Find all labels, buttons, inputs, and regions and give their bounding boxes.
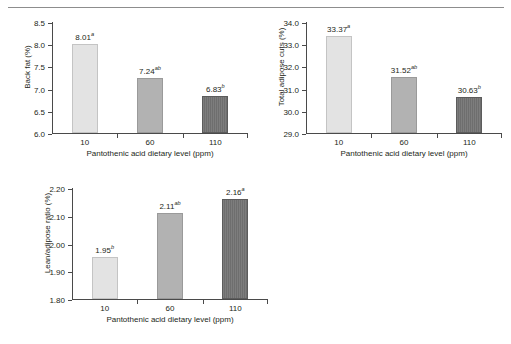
bar-value-label: 33.37a bbox=[327, 25, 350, 34]
y-axis-tick bbox=[68, 189, 72, 190]
x-axis-tick bbox=[183, 134, 184, 138]
bar-value-label: 31.52ab bbox=[391, 66, 417, 75]
y-axis-tick-label: 33.0 bbox=[283, 41, 299, 50]
x-axis-tick-label: 60 bbox=[146, 138, 155, 147]
y-axis-tick bbox=[48, 23, 52, 24]
x-axis-line bbox=[306, 133, 502, 134]
chart-back-fat: Back fat (%) 6.06.57.07.58.08.58.01a107.… bbox=[8, 16, 252, 168]
y-axis-tick-label: 34.0 bbox=[283, 19, 299, 28]
y-axis-tick-label: 1.90 bbox=[49, 268, 65, 277]
bar bbox=[92, 257, 118, 299]
x-axis-tick bbox=[203, 300, 204, 304]
x-axis-tick-label: 60 bbox=[400, 138, 409, 147]
x-axis-tick-label: 110 bbox=[463, 138, 476, 147]
bar bbox=[137, 78, 163, 133]
y-axis-line bbox=[306, 22, 307, 134]
y-axis-line bbox=[72, 188, 73, 300]
x-axis-tick bbox=[137, 300, 138, 304]
x-axis-tick-label: 10 bbox=[80, 138, 89, 147]
x-axis-tick bbox=[501, 134, 502, 138]
bar-value-label: 2.16a bbox=[226, 188, 245, 197]
y-axis-tick bbox=[302, 134, 306, 135]
y-axis-tick-label: 6.5 bbox=[34, 107, 45, 116]
x-axis-tick bbox=[371, 134, 372, 138]
x-axis-tick bbox=[267, 300, 268, 304]
bar bbox=[222, 199, 248, 299]
y-axis-tick-label: 31.0 bbox=[283, 85, 299, 94]
y-axis-tick bbox=[68, 272, 72, 273]
bar bbox=[157, 213, 183, 299]
x-axis-title: Pantothenic acid dietary level (ppm) bbox=[52, 149, 248, 158]
y-axis-tick-label: 1.80 bbox=[49, 296, 65, 305]
x-axis-tick bbox=[437, 134, 438, 138]
x-axis-line bbox=[72, 299, 268, 300]
y-axis-tick bbox=[48, 90, 52, 91]
y-axis-tick-label: 2.20 bbox=[49, 185, 65, 194]
y-axis-tick bbox=[68, 300, 72, 301]
bar bbox=[202, 96, 228, 133]
x-axis-title: Pantothenic acid dietary level (ppm) bbox=[72, 315, 268, 324]
chart-total-adipose-cuts: Total adipose cuts (%) 29.030.031.032.03… bbox=[262, 16, 506, 168]
y-axis-tick-label: 2.10 bbox=[49, 212, 65, 221]
x-axis-tick bbox=[247, 134, 248, 138]
y-axis-tick-label: 29.0 bbox=[283, 130, 299, 139]
x-axis-line bbox=[52, 133, 248, 134]
y-axis-tick bbox=[302, 45, 306, 46]
y-axis-tick bbox=[302, 67, 306, 68]
x-axis-tick-label: 60 bbox=[166, 304, 175, 313]
bar-value-label: 1.95b bbox=[95, 246, 114, 255]
y-axis-tick-label: 2.00 bbox=[49, 240, 65, 249]
y-axis-tick bbox=[48, 112, 52, 113]
x-axis-tick bbox=[117, 134, 118, 138]
y-axis-tick bbox=[48, 134, 52, 135]
y-axis-tick-label: 32.0 bbox=[283, 63, 299, 72]
bar-value-label: 2.11ab bbox=[159, 202, 180, 211]
plot-area: 29.030.031.032.033.034.033.37a1031.52ab6… bbox=[306, 22, 502, 134]
bar bbox=[72, 44, 98, 133]
y-axis-tick bbox=[68, 245, 72, 246]
bar-value-label: 8.01a bbox=[75, 33, 94, 42]
x-axis-tick-label: 110 bbox=[229, 304, 242, 313]
y-axis-tick-label: 6.0 bbox=[34, 130, 45, 139]
y-axis-tick bbox=[48, 45, 52, 46]
y-axis-tick-label: 7.0 bbox=[34, 85, 45, 94]
x-axis-tick-label: 110 bbox=[209, 138, 222, 147]
bar-value-label: 6.83b bbox=[206, 85, 225, 94]
x-axis-tick-label: 10 bbox=[100, 304, 109, 313]
y-axis-tick bbox=[48, 67, 52, 68]
y-axis-line bbox=[52, 22, 53, 134]
plot-area: 6.06.57.07.58.08.58.01a107.24ab606.83b11… bbox=[52, 22, 248, 134]
y-axis-tick bbox=[302, 23, 306, 24]
x-axis-tick-label: 10 bbox=[334, 138, 343, 147]
y-axis-tick-label: 8.0 bbox=[34, 41, 45, 50]
y-axis-tick-label: 7.5 bbox=[34, 63, 45, 72]
bar-value-label: 30.63b bbox=[458, 86, 481, 95]
bar bbox=[391, 77, 417, 133]
bar bbox=[326, 36, 352, 133]
chart-lean-adipose-ratio: Lean/adipose ratio (%) 1.801.902.002.102… bbox=[28, 182, 272, 334]
y-axis-tick bbox=[302, 112, 306, 113]
y-axis-tick bbox=[302, 90, 306, 91]
plot-area: 1.801.902.002.102.201.95b102.11ab602.16a… bbox=[72, 188, 268, 300]
y-axis-tick-label: 30.0 bbox=[283, 107, 299, 116]
y-axis-tick-label: 8.5 bbox=[34, 19, 45, 28]
x-axis-title: Pantothenic acid dietary level (ppm) bbox=[306, 149, 502, 158]
bar bbox=[456, 97, 482, 133]
bar-value-label: 7.24ab bbox=[139, 67, 161, 76]
y-axis-tick bbox=[68, 217, 72, 218]
top-divider-rule bbox=[8, 7, 504, 8]
